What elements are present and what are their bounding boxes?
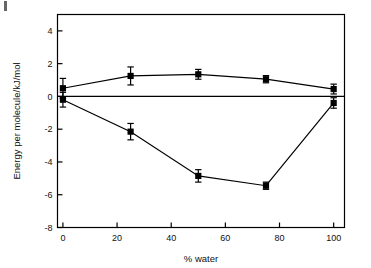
y-tick-label: 2 (47, 59, 52, 69)
data-point-marker (60, 97, 66, 103)
series-lower-series (60, 92, 337, 189)
data-point-marker (128, 73, 134, 79)
y-tick-label: 4 (47, 26, 52, 36)
x-tick-label: 0 (60, 233, 65, 243)
y-tick-label: -6 (44, 190, 52, 200)
data-point-marker (195, 173, 201, 179)
data-point-marker (128, 129, 134, 135)
data-point-marker (195, 71, 201, 77)
x-axis-title: % water (184, 253, 218, 264)
x-tick-label: 80 (275, 233, 285, 243)
data-series-group (60, 67, 337, 189)
plot-border (58, 15, 345, 228)
plot-frame (58, 15, 345, 228)
y-axis-title: Energy per molecule/kJ/mol (11, 62, 22, 179)
data-point-marker (263, 76, 269, 82)
data-point-marker (331, 86, 337, 92)
figure-root: 420-2-4-6-8 020406080100 % water Energy … (0, 0, 371, 268)
energy-vs-water-chart: 420-2-4-6-8 020406080100 % water Energy … (0, 0, 371, 268)
x-tick-label: 60 (220, 233, 230, 243)
y-tick-label: -4 (44, 157, 52, 167)
x-tick-label: 40 (166, 233, 176, 243)
series-upper-series (60, 67, 337, 98)
data-point-marker (263, 183, 269, 189)
data-point-marker (331, 100, 337, 106)
x-tick-label: 100 (326, 233, 341, 243)
y-axis-ticks: 420-2-4-6-8 (44, 26, 62, 233)
y-tick-label: -8 (44, 223, 52, 233)
x-tick-label: 20 (112, 233, 122, 243)
y-tick-label: 0 (47, 92, 52, 102)
data-point-marker (60, 85, 66, 91)
x-axis-ticks: 020406080100 (60, 223, 341, 243)
y-tick-label: -2 (44, 124, 52, 134)
